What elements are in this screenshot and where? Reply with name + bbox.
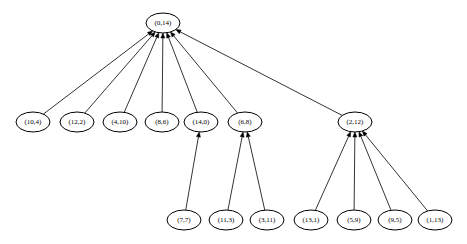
edge bbox=[359, 132, 391, 211]
edge-line bbox=[174, 36, 238, 113]
node-label: (4,10) bbox=[112, 118, 130, 126]
edge bbox=[315, 132, 350, 211]
tree-node: (10,4) bbox=[16, 112, 50, 132]
tree-node: (7,7) bbox=[167, 210, 201, 230]
node-label: (2,12) bbox=[347, 118, 365, 126]
tree-node: (5,9) bbox=[337, 210, 371, 230]
edge-line bbox=[315, 136, 348, 210]
tree-node: (3,11) bbox=[250, 210, 284, 230]
edge bbox=[176, 30, 342, 116]
tree-diagram: (0,14)(10,4)(12,2)(4,10)(8,6)(14,0)(6,8)… bbox=[0, 0, 467, 244]
node-label: (5,9) bbox=[347, 216, 361, 224]
tree-node: (11,3) bbox=[209, 210, 243, 230]
tree-node: (13,1) bbox=[294, 210, 328, 230]
edge-line bbox=[354, 137, 355, 210]
arrowhead-icon bbox=[167, 33, 171, 38]
edge-line bbox=[366, 135, 428, 211]
tree-node: (4,10) bbox=[103, 112, 137, 132]
edge bbox=[186, 132, 201, 210]
node-label: (10,4) bbox=[25, 118, 43, 126]
edge bbox=[353, 132, 357, 210]
edge-line bbox=[186, 137, 199, 210]
tree-node: (0,14) bbox=[146, 13, 180, 33]
node-label: (11,3) bbox=[218, 216, 235, 224]
arrowhead-icon bbox=[196, 132, 200, 137]
edge bbox=[85, 32, 156, 113]
edge bbox=[43, 31, 152, 114]
node-label: (8,6) bbox=[155, 118, 169, 126]
node-label: (13,1) bbox=[303, 216, 321, 224]
tree-node: (14,0) bbox=[184, 112, 218, 132]
nodes-layer: (0,14)(10,4)(12,2)(4,10)(8,6)(14,0)(6,8)… bbox=[16, 13, 452, 230]
arrowhead-icon bbox=[176, 30, 181, 34]
edge-line bbox=[228, 137, 242, 210]
node-label: (7,7) bbox=[177, 216, 191, 224]
edge-line bbox=[169, 37, 198, 112]
node-label: (3,11) bbox=[259, 216, 276, 224]
edge bbox=[161, 33, 165, 112]
node-label: (9,5) bbox=[388, 216, 402, 224]
arrowhead-icon bbox=[161, 33, 165, 38]
tree-node: (12,2) bbox=[60, 112, 94, 132]
tree-node: (6,8) bbox=[228, 112, 262, 132]
node-label: (6,8) bbox=[238, 118, 252, 126]
edge-line bbox=[85, 36, 152, 113]
tree-node: (8,6) bbox=[145, 112, 179, 132]
node-label: (14,0) bbox=[193, 118, 211, 126]
tree-node: (1,13) bbox=[418, 210, 452, 230]
edge bbox=[167, 33, 198, 112]
edge-line bbox=[248, 137, 264, 210]
edge-line bbox=[43, 34, 148, 114]
arrowhead-icon bbox=[353, 132, 357, 137]
edge bbox=[124, 33, 159, 113]
arrowhead-icon bbox=[359, 132, 363, 137]
node-label: (12,2) bbox=[69, 118, 87, 126]
edge bbox=[362, 131, 427, 211]
arrowhead-icon bbox=[240, 132, 244, 137]
edge bbox=[228, 132, 244, 210]
arrowhead-icon bbox=[246, 132, 250, 137]
tree-node: (9,5) bbox=[378, 210, 412, 230]
edge bbox=[246, 132, 264, 210]
tree-node: (2,12) bbox=[338, 112, 372, 132]
arrowhead-icon bbox=[155, 33, 159, 38]
edge-line bbox=[162, 38, 163, 112]
node-label: (0,14) bbox=[155, 19, 173, 27]
arrowhead-icon bbox=[347, 132, 351, 137]
node-label: (1,13) bbox=[427, 216, 445, 224]
